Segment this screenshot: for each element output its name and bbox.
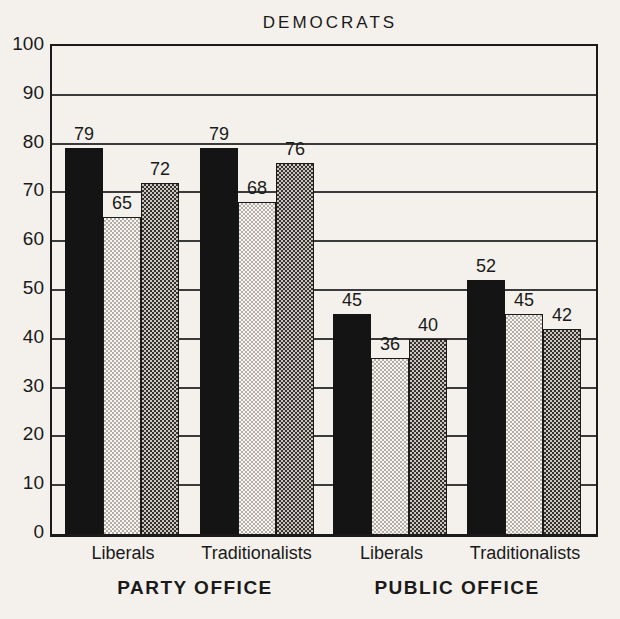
bar [238, 202, 276, 534]
y-axis-tick-label: 100 [0, 34, 44, 54]
bar [543, 329, 581, 534]
y-axis-tick-label: 30 [0, 376, 44, 396]
bar [409, 339, 447, 534]
bar [371, 358, 409, 534]
y-axis-tick-label: 40 [0, 327, 44, 347]
bar-value-label: 45 [514, 290, 534, 311]
category-label: Traditionalists [470, 543, 580, 564]
bar-value-label: 76 [285, 139, 305, 160]
y-axis-tick-label: 20 [0, 424, 44, 444]
category-label: Liberals [91, 543, 154, 564]
gridline [52, 94, 596, 96]
page: { "colors": { "paper": "#f4f1ec", "ink":… [0, 0, 620, 619]
bar-value-label: 36 [380, 334, 400, 355]
chart-title: DEMOCRATS [263, 13, 397, 33]
bar [103, 217, 141, 534]
bar-value-label: 68 [247, 178, 267, 199]
bar-value-label: 52 [476, 256, 496, 277]
category-label: Traditionalists [201, 543, 311, 564]
section-label: PUBLIC OFFICE [374, 577, 539, 599]
y-axis-tick-label: 60 [0, 229, 44, 249]
category-label: Liberals [360, 543, 423, 564]
y-axis-tick-label: 10 [0, 473, 44, 493]
bar [467, 280, 505, 534]
bar-value-label: 42 [552, 305, 572, 326]
gridline [52, 143, 596, 145]
bar-value-label: 45 [342, 290, 362, 311]
bar [141, 183, 179, 534]
bar-value-label: 72 [150, 159, 170, 180]
bar [65, 148, 103, 534]
plot-area: 796572796876453640524542 [50, 44, 598, 537]
y-axis-tick-label: 90 [0, 83, 44, 103]
bar-value-label: 65 [112, 193, 132, 214]
gridline [52, 191, 596, 193]
bar-value-label: 79 [74, 124, 94, 145]
bar [505, 314, 543, 534]
section-label: PARTY OFFICE [117, 577, 273, 599]
bar [200, 148, 238, 534]
bar [333, 314, 371, 534]
y-axis-tick-label: 0 [0, 522, 44, 542]
y-axis-tick-label: 80 [0, 132, 44, 152]
y-axis-tick-label: 50 [0, 278, 44, 298]
bar-value-label: 40 [418, 315, 438, 336]
bar [276, 163, 314, 534]
bar-value-label: 79 [209, 124, 229, 145]
y-axis-tick-label: 70 [0, 180, 44, 200]
